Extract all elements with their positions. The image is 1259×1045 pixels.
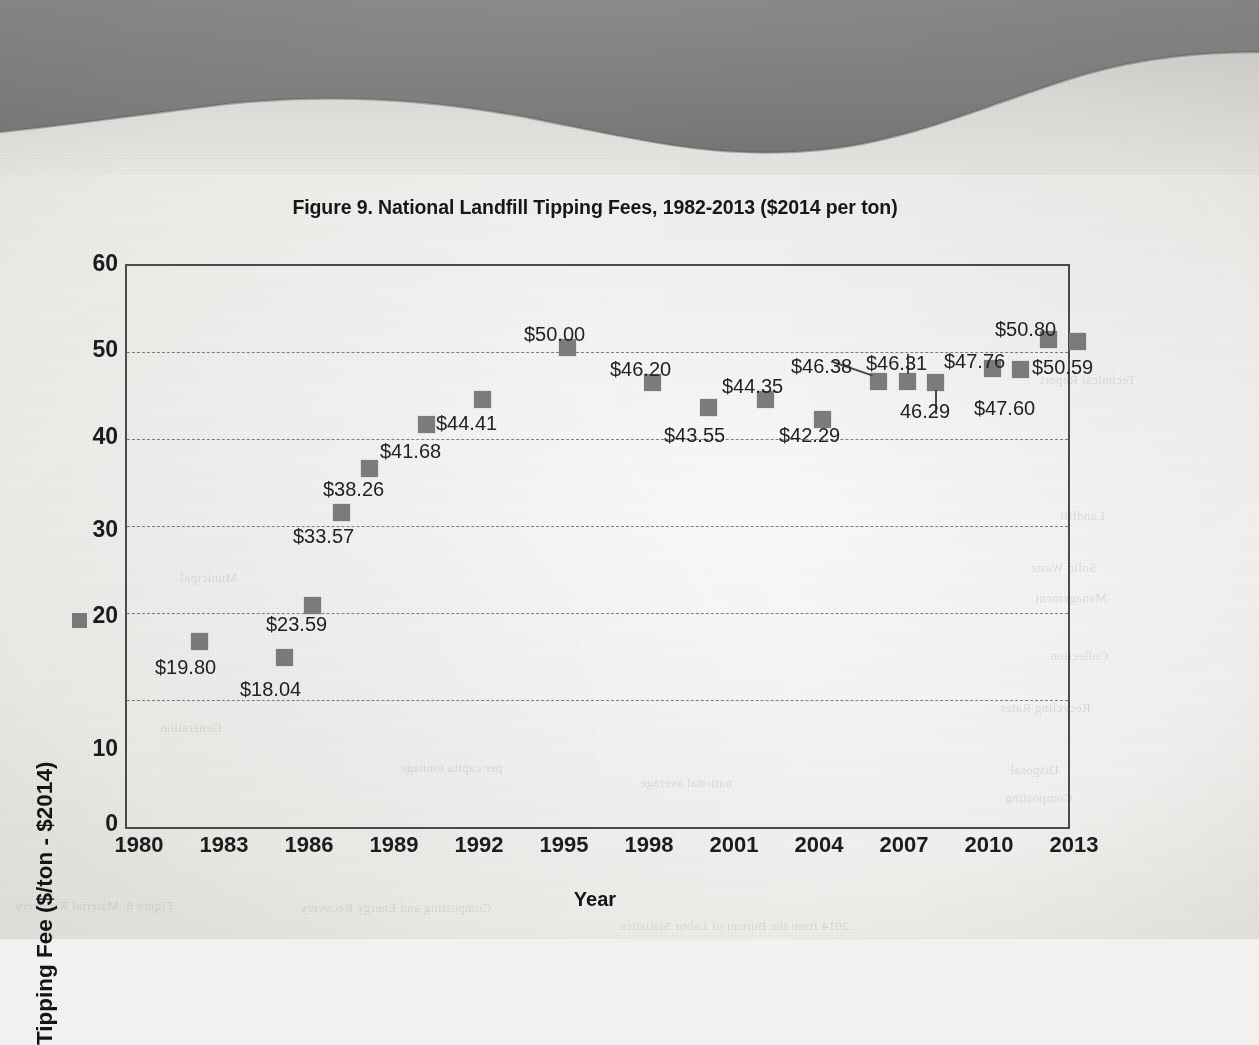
data-point-2008 xyxy=(927,374,944,391)
plot-area xyxy=(125,264,1070,829)
x-tick-1992: 1992 xyxy=(439,832,519,858)
figure-title: Figure 9. National Landfill Tipping Fees… xyxy=(0,196,1190,219)
y-tick-30: 30 xyxy=(48,516,118,543)
data-point-1992 xyxy=(474,391,491,408)
data-label-1988: $38.26 xyxy=(323,478,384,501)
x-axis-label: Year xyxy=(0,888,1190,911)
data-label-2007: $46.31 xyxy=(866,352,927,375)
y-tick-60: 60 xyxy=(48,250,118,277)
data-label-2006: $46.38 xyxy=(791,355,852,378)
y-tick-20: 20 xyxy=(48,602,118,629)
x-tick-1989: 1989 xyxy=(354,832,434,858)
data-label-2008: 46.29 xyxy=(900,400,950,423)
data-label-2011: $47.60 xyxy=(974,397,1035,420)
data-label-1992: $44.41 xyxy=(436,412,497,435)
data-label-2002: $44.35 xyxy=(722,375,783,398)
x-tick-2004: 2004 xyxy=(779,832,859,858)
data-point-1982 xyxy=(191,633,208,650)
data-label-1987: $33.57 xyxy=(293,525,354,548)
x-tick-2001: 2001 xyxy=(694,832,774,858)
data-point-1985 xyxy=(276,649,293,666)
data-point-1988 xyxy=(361,460,378,477)
gridline-30 xyxy=(127,526,1068,527)
data-point-1986 xyxy=(304,597,321,614)
data-label-2013: $50.59 xyxy=(1032,356,1093,379)
x-tick-2010: 2010 xyxy=(949,832,1029,858)
data-label-1990: $41.68 xyxy=(380,440,441,463)
x-tick-1995: 1995 xyxy=(524,832,604,858)
gridline-40 xyxy=(127,439,1068,440)
data-label-2004: $42.29 xyxy=(779,424,840,447)
data-label-1995: $50.00 xyxy=(524,323,585,346)
y-tick-10: 10 xyxy=(48,735,118,762)
data-point-2013 xyxy=(1069,333,1086,350)
data-label-2000: $43.55 xyxy=(664,424,725,447)
data-label-1985: $18.04 xyxy=(240,678,301,701)
data-label-1986: $23.59 xyxy=(266,613,327,636)
x-tick-1986: 1986 xyxy=(269,832,349,858)
data-point-2011 xyxy=(1012,361,1029,378)
data-point-1987 xyxy=(333,504,350,521)
x-tick-1998: 1998 xyxy=(609,832,689,858)
x-tick-2007: 2007 xyxy=(864,832,944,858)
data-label-1998: $46.20 xyxy=(610,358,671,381)
x-tick-2013: 2013 xyxy=(1034,832,1114,858)
data-point-1990 xyxy=(418,416,435,433)
data-label-2012: $50.80 xyxy=(995,318,1056,341)
x-tick-1980: 1980 xyxy=(99,832,179,858)
data-label-2010: $47.76 xyxy=(944,350,1005,373)
data-label-1982: $19.80 xyxy=(155,656,216,679)
data-point-2007 xyxy=(899,373,916,390)
data-point-2000 xyxy=(700,399,717,416)
y-tick-50: 50 xyxy=(48,336,118,363)
x-tick-1983: 1983 xyxy=(184,832,264,858)
y-tick-40: 40 xyxy=(48,423,118,450)
